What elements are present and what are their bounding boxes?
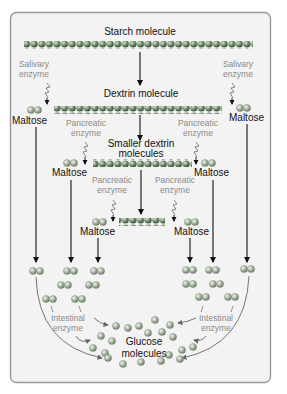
- svg-text:Salivary: Salivary: [223, 59, 254, 69]
- svg-text:Pancreatic: Pancreatic: [66, 118, 107, 128]
- svg-text:Pancreatic: Pancreatic: [178, 118, 219, 128]
- starch-digestion-diagram: Starch molecule Salivary enzyme Salivary…: [0, 0, 287, 394]
- svg-text:enzyme: enzyme: [160, 185, 190, 195]
- svg-text:enzyme: enzyme: [201, 323, 231, 333]
- starch-chain: [24, 41, 253, 49]
- svg-text:enzyme: enzyme: [19, 69, 49, 79]
- svg-text:Intestinal: Intestinal: [199, 313, 233, 323]
- svg-text:Salivary: Salivary: [19, 59, 50, 69]
- glucose-label-2: molecules: [121, 348, 166, 359]
- svg-text:enzyme: enzyme: [97, 185, 127, 195]
- maltose-label-l3: Maltose: [80, 226, 115, 237]
- svg-text:Pancreatic: Pancreatic: [92, 175, 133, 185]
- smaller-dextrin-chain: [93, 159, 192, 167]
- smaller-dextrin-label-2: molecules: [118, 148, 163, 159]
- maltose-label-r1: Maltose: [229, 112, 264, 123]
- maltose-label-l1: Maltose: [12, 115, 47, 126]
- maltose-label-r2: Maltose: [194, 167, 229, 178]
- svg-text:enzyme: enzyme: [183, 128, 213, 138]
- svg-text:enzyme: enzyme: [223, 69, 253, 79]
- svg-text:enzyme: enzyme: [53, 323, 83, 333]
- glucose-label-1: Glucose: [126, 336, 163, 347]
- short-dextrin-chain: [119, 218, 165, 226]
- svg-text:enzyme: enzyme: [71, 128, 101, 138]
- maltose-label-r3: Maltose: [174, 226, 209, 237]
- svg-text:Pancreatic: Pancreatic: [155, 175, 196, 185]
- dextrin-label: Dextrin molecule: [104, 88, 179, 99]
- starch-label: Starch molecule: [104, 26, 176, 37]
- maltose-label-l2: Maltose: [52, 167, 87, 178]
- dextrin-chain: [54, 106, 222, 114]
- svg-text:Intestinal: Intestinal: [51, 313, 85, 323]
